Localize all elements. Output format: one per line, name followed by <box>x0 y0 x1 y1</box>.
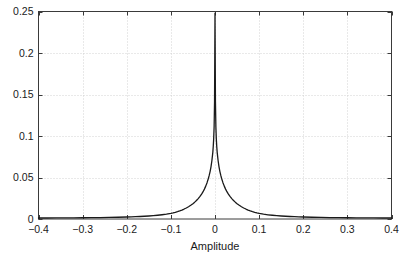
x-tick-label: −0.4 <box>19 224 59 235</box>
x-tick-label: 0 <box>195 224 235 235</box>
data-series-line <box>39 13 392 218</box>
x-tick-label: −0.3 <box>63 224 103 235</box>
y-tick-label: 0.1 <box>19 131 34 142</box>
x-tick-label: 0.3 <box>327 224 367 235</box>
y-tick-label: 0.15 <box>13 89 33 100</box>
x-tick-label: −0.1 <box>151 224 191 235</box>
x-tick-label: 0.1 <box>239 224 279 235</box>
y-tick-label: 0.25 <box>13 6 33 17</box>
x-axis-title: Amplitude <box>38 241 392 252</box>
x-tick-label: 0.4 <box>372 224 411 235</box>
x-tick-label: −0.2 <box>107 224 147 235</box>
y-tick-label: 0.2 <box>19 48 34 59</box>
y-tick-label: 0.05 <box>13 172 33 183</box>
chart-figure: 00.050.10.150.20.25 −0.4−0.3−0.2−0.100.1… <box>0 0 411 264</box>
x-tick-label: 0.2 <box>283 224 323 235</box>
